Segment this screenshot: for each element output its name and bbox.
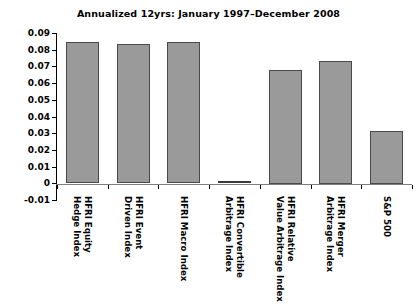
plot-area: 0.090.080.070.060.050.040.030.020.010-0.…: [0, 0, 417, 304]
y-tick-label: -0.01: [0, 196, 50, 205]
y-tick-mark: [52, 200, 56, 201]
x-axis-label-line: HFRI Event: [134, 196, 145, 300]
y-tick-mark: [52, 50, 56, 51]
x-axis-label-line: Arbitrage Index: [224, 196, 235, 272]
zero-baseline: [56, 184, 412, 185]
x-tick-mark: [108, 185, 109, 189]
y-tick-label: 0.03: [0, 129, 50, 138]
x-axis-label-line: HFRI Relative: [286, 196, 297, 300]
x-axis-label: HFRI MergerArbitrage Index: [334, 196, 346, 300]
y-tick-label: 0.02: [0, 146, 50, 155]
y-tick-mark: [52, 167, 56, 168]
x-axis-label-line: S&P 500: [382, 196, 393, 300]
x-axis-label: HFRI EquityHedge Index: [81, 196, 93, 300]
x-axis-label-line: HFRI Equity: [83, 196, 94, 300]
bar: [218, 181, 251, 183]
y-tick-label: 0.09: [0, 29, 50, 38]
x-axis-label: HFRI RelativeValue Arbitrage Index: [284, 196, 296, 300]
x-tick-mark: [260, 185, 261, 189]
bar: [66, 42, 99, 183]
y-tick-label: 0.01: [0, 163, 50, 172]
x-axis-label-line: Arbitrage Index: [325, 196, 336, 272]
bar: [117, 44, 150, 183]
y-tick-mark: [52, 83, 56, 84]
bar: [319, 61, 352, 184]
y-tick-label: 0.04: [0, 113, 50, 122]
bar: [370, 131, 403, 184]
y-tick-mark: [52, 66, 56, 67]
x-tick-mark: [57, 185, 58, 189]
y-tick-mark: [52, 33, 56, 34]
x-axis-label: HFRI ConvertibleArbitrage Index: [233, 196, 245, 300]
bar: [269, 70, 302, 184]
x-axis-label: HFRI Macro Index: [177, 196, 189, 300]
y-tick-label: 0.07: [0, 62, 50, 71]
y-tick-mark: [52, 133, 56, 134]
y-tick-mark: [52, 100, 56, 101]
bar: [167, 42, 200, 183]
y-axis-spine: [56, 33, 57, 201]
y-tick-label: 0: [0, 179, 50, 188]
y-tick-label: 0.05: [0, 96, 50, 105]
y-tick-mark: [52, 150, 56, 151]
x-axis-label: HFRI EventDriven Index: [132, 196, 144, 300]
x-axis-label-line: Driven Index: [123, 196, 134, 258]
x-axis-label-line: Value Arbitrage Index: [275, 196, 286, 302]
x-axis-label-line: Hedge Index: [72, 196, 83, 257]
bar-chart: Annualized 12yrs: January 1997–December …: [0, 0, 417, 304]
x-axis-label-line: HFRI Macro Index: [179, 196, 190, 300]
x-tick-mark: [412, 185, 413, 189]
x-tick-mark: [209, 185, 210, 189]
y-tick-mark: [52, 117, 56, 118]
x-tick-mark: [361, 185, 362, 189]
x-tick-mark: [311, 185, 312, 189]
x-tick-mark: [158, 185, 159, 189]
x-axis-label: S&P 500: [380, 196, 392, 300]
x-axis-label-line: HFRI Convertible: [235, 196, 246, 300]
y-tick-label: 0.06: [0, 79, 50, 88]
y-tick-label: 0.08: [0, 46, 50, 55]
x-axis-label-line: HFRI Merger: [336, 196, 347, 300]
